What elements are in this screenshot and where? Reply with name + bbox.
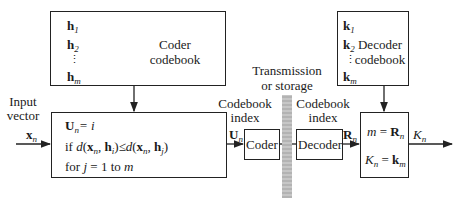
rule-line-loop: for j = 1 to m [65, 160, 133, 173]
codebook-entry-h2: h2 [67, 38, 79, 54]
encoder-rule-box: Un= i if d(xn, hi)≤d(xn, hj) for j = 1 t… [51, 112, 227, 178]
decoder-codebook-box: k1 k2 ⋮ km Decoder codebook [337, 11, 409, 86]
decoder-entry-k1: k1 [343, 19, 355, 35]
rule-line-assign: Un= i [65, 119, 95, 135]
decoder-entry-km: km [343, 70, 357, 86]
lookup-line-output: Kn = km [365, 153, 406, 169]
codebook-entry-h1: h1 [67, 19, 79, 35]
codebook-entry-hm: hm [67, 70, 81, 86]
decoder-index-symbol: Rn [343, 128, 357, 144]
transmission-channel [282, 95, 292, 198]
coder-block-label: Coder [246, 138, 278, 151]
input-symbol: xn [26, 128, 37, 144]
output-symbol: Kn [413, 128, 426, 144]
lookup-line-index: m = Rn [367, 125, 404, 141]
codebook-ellipsis: ⋮ [69, 54, 80, 65]
decoder-lookup-box: m = Rn Kn = km [360, 112, 409, 178]
decoder-index-label: Codebook index [294, 97, 352, 125]
transmission-label: Transmission or storage [242, 63, 332, 93]
decoder-block-label: Decoder [298, 138, 342, 151]
rule-line-condition: if d(xn, hi)≤d(xn, hj) [65, 140, 168, 156]
coder-index-label: Codebook index [216, 97, 274, 125]
coder-block: Coder [244, 129, 280, 160]
coder-codebook-box: h1 h2 ⋮ hm Coder codebook [50, 11, 226, 86]
coder-index-symbol: Un [229, 128, 243, 144]
decoder-codebook-title: Decoder codebook [352, 37, 408, 67]
coder-codebook-title: Coder codebook [135, 37, 215, 67]
input-vector-label: Input vector [0, 95, 46, 123]
decoder-block: Decoder [296, 129, 343, 160]
